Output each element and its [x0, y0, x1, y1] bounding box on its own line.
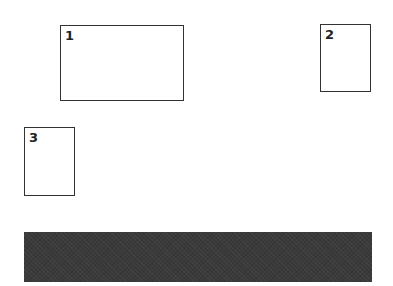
box-3-label: 3: [29, 130, 38, 145]
dark-bar: [24, 232, 372, 282]
box-1-label: 1: [65, 28, 74, 43]
box-2: 2: [320, 24, 371, 92]
box-3: 3: [24, 127, 75, 196]
box-2-label: 2: [325, 27, 334, 42]
box-1: 1: [60, 25, 184, 101]
